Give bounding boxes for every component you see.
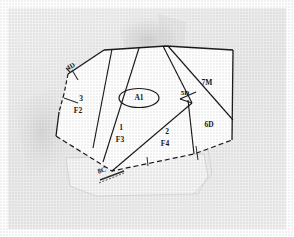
parcel-label-2: 2 <box>165 127 169 136</box>
screenshot-canvas: 4D 3 F2 A1 1 F3 2 F4 5D 7M 6D 8C <box>0 0 294 237</box>
parcel-label-6d: 6D <box>204 120 214 129</box>
parcel-code-f2: F2 <box>74 106 83 115</box>
scanned-map-frame: 4D 3 F2 A1 1 F3 2 F4 5D 7M 6D 8C <box>8 8 286 229</box>
parcel-code-f4: F4 <box>161 139 170 148</box>
parcel-label-a1: A1 <box>134 93 143 102</box>
parcel-code-f3: F3 <box>116 135 125 144</box>
parcel-map-svg: 4D 3 F2 A1 1 F3 2 F4 5D 7M 6D 8C <box>8 8 286 229</box>
parcel-label-5d: 5D <box>181 89 190 97</box>
parcel-label-3: 3 <box>79 94 83 103</box>
parcel-label-7m: 7M <box>202 78 213 87</box>
parcel-label-1: 1 <box>119 123 123 132</box>
